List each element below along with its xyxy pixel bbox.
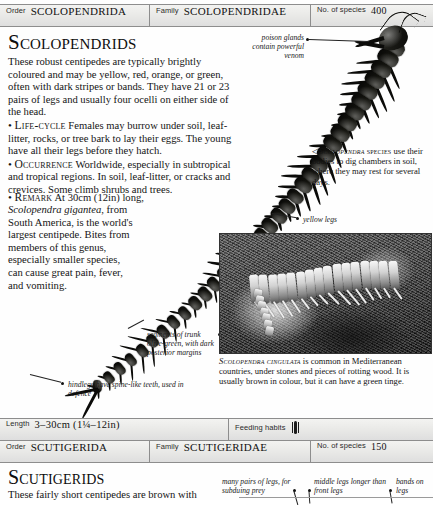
centipede-leg xyxy=(253,225,270,229)
centipede-leg xyxy=(271,205,286,209)
leader-line-hindlegs xyxy=(30,374,61,383)
species-count-value-footer: 150 xyxy=(371,441,387,452)
family-label: Family xyxy=(156,6,179,15)
remark-text-lead: At 30cm (12in) long, xyxy=(54,192,143,203)
paragraph-life-cycle: • Life-cycle Females may burrow under so… xyxy=(8,119,232,158)
centipede-leg xyxy=(183,314,187,329)
family-cell: Family SCOLOPENDRIDAE xyxy=(149,5,310,26)
centipede-segment xyxy=(112,360,128,376)
centipede-leg xyxy=(169,310,184,315)
species-count-label-footer: No. of species xyxy=(317,441,366,450)
order-label-footer: Order xyxy=(6,442,26,451)
centipede-leg xyxy=(356,59,388,65)
length-feeding-bar: Length 3–30cm (1¼–12in) Feeding habits xyxy=(0,418,433,441)
caption-photo-species: Scolopendra cingulata xyxy=(219,356,301,366)
photo-leg xyxy=(328,292,341,305)
centipede-leg xyxy=(294,197,302,216)
caption-marker-icon: ◁ xyxy=(312,146,319,156)
centipede-segment xyxy=(175,304,193,322)
main-body-text: These robust centipedes are typically br… xyxy=(8,56,232,197)
life-cycle-label: Life-cycle xyxy=(15,119,66,132)
centipede-segment xyxy=(328,122,352,144)
centipede-segment xyxy=(292,175,314,196)
paragraph-remark: • Remark At 30cm (12in) long, xyxy=(8,191,160,205)
feeding-habits-cell: Feeding habits xyxy=(228,419,433,440)
order-value-footer: SCUTIGERIDA xyxy=(31,441,108,453)
species-count-cell-footer: No. of species 150 xyxy=(310,441,433,462)
order-cell-footer: Order SCUTIGERIDA xyxy=(0,441,149,462)
length-label: Length xyxy=(6,419,30,428)
photo-tail-segment xyxy=(265,325,275,335)
centipede-leg xyxy=(141,351,145,375)
annotation-trunk-segments: segments of trunk olive-green, with dark… xyxy=(147,330,219,357)
centipede-leg xyxy=(347,69,381,75)
order-value: SCOLOPENDRIDA xyxy=(31,5,127,17)
order-cell: Order SCOLOPENDRIDA xyxy=(0,5,149,26)
centipede-leg xyxy=(339,102,361,106)
remark-text-rest: , from South America, is the world's lar… xyxy=(8,204,133,291)
centipede-leg xyxy=(322,134,341,138)
centipede-leg xyxy=(340,91,368,96)
taxonomy-header-bar: Order SCOLOPENDRIDA Family SCOLOPENDRIDA… xyxy=(0,4,433,27)
caption-species-name: Scolopendra xyxy=(319,146,365,156)
centipede-leg xyxy=(155,318,174,324)
caption-photo-cingulata: Scolopendra cingulata is common in Medit… xyxy=(219,356,431,387)
order-label: Order xyxy=(6,6,26,15)
annotation-hindlegs: hindlegs have spine-like teeth, used in … xyxy=(68,380,188,398)
annotation-many-legs: many pairs of legs, for subduing prey xyxy=(222,477,292,495)
remark-label: Remark xyxy=(15,191,53,204)
centipede-segment xyxy=(348,90,373,113)
bottom-rule xyxy=(239,497,433,498)
centipede-leg xyxy=(130,361,134,381)
centipede-segment xyxy=(355,79,380,102)
remark-paragraph: • Remark At 30cm (12in) long, xyxy=(8,191,160,205)
centipede-leg xyxy=(277,217,283,232)
centipede-segment xyxy=(123,351,139,368)
bullet-glyph: • xyxy=(8,191,12,203)
photo-centipede-tail xyxy=(242,288,296,341)
centipede-leg xyxy=(213,286,218,304)
bullet-glyph: • xyxy=(8,119,12,131)
centipede-icon xyxy=(291,421,300,434)
centipede-segment xyxy=(276,195,298,216)
centipede-leg xyxy=(360,103,371,124)
feeding-habits-label: Feeding habits xyxy=(235,423,286,432)
centipede-forcipule xyxy=(355,36,385,48)
centipede-leg xyxy=(337,112,354,116)
centipede-leg xyxy=(302,187,312,212)
centipede-leg xyxy=(181,301,194,306)
species-count-value: 400 xyxy=(371,5,387,16)
centipede-segment xyxy=(374,47,400,71)
annotation-middle-legs: middle legs longer than front legs xyxy=(314,477,386,495)
leader-line-poison xyxy=(309,39,369,42)
annotation-yellow-legs: yellow legs xyxy=(303,215,363,224)
centipede-leg xyxy=(379,70,395,103)
centipede-leg xyxy=(386,60,401,90)
centipede-leg xyxy=(281,175,311,178)
leader-line-trunk xyxy=(128,320,144,329)
length-value: 3–30cm (1¼–12in) xyxy=(35,419,120,430)
leader-line-yellow xyxy=(272,213,297,218)
occurrence-label: Occurrence xyxy=(15,158,73,171)
paragraph-intro: These robust centipedes are typically br… xyxy=(8,56,232,119)
centipede-segment xyxy=(195,285,213,304)
centipede-segment xyxy=(185,294,203,312)
centipede-segment xyxy=(362,69,388,92)
centipede-leg xyxy=(119,345,142,353)
length-cell: Length 3–30cm (1¼–12in) xyxy=(0,419,228,440)
bullet-glyph: • xyxy=(8,158,12,170)
centipede-leg xyxy=(197,282,215,287)
centipede-leg xyxy=(275,195,295,199)
centipede-segment xyxy=(335,112,359,135)
centipede-leg xyxy=(346,124,355,140)
leader-dot-hindlegs xyxy=(61,382,64,385)
family-value: SCOLOPENDRIDAE xyxy=(184,5,287,17)
centipede-leg xyxy=(353,113,362,130)
centipede-leg xyxy=(373,81,389,112)
annotation-poison-glands: poison glands contain powerful venom xyxy=(248,33,304,60)
centipede-segment xyxy=(381,36,408,60)
centipede-leg xyxy=(105,365,120,371)
centipede-leg xyxy=(264,215,279,219)
centipede-leg xyxy=(203,295,207,309)
species-count-cell: No. of species 400 xyxy=(310,5,433,26)
